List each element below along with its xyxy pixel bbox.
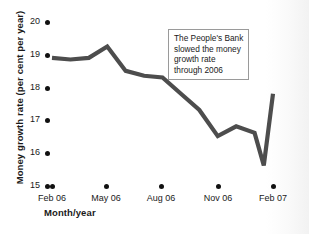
y-tick-label-19: 19 xyxy=(18,49,40,59)
y-tick-label-20: 20 xyxy=(18,16,40,26)
x-tick-label-feb07: Feb 07 xyxy=(250,193,296,203)
x-tick-dot-feb06 xyxy=(50,184,55,189)
x-tick-dot-aug06 xyxy=(159,184,164,189)
chart-figure: Money growth rate (per cent per year) Mo… xyxy=(0,0,309,234)
x-tick-dot-feb07 xyxy=(271,184,276,189)
x-tick-dot-may06 xyxy=(104,184,109,189)
x-tick-label-may06: May 06 xyxy=(83,193,129,203)
annotation-callout: The People's Bank slowed the money growt… xyxy=(168,29,249,80)
y-tick-dot-20 xyxy=(45,20,50,25)
y-tick-dot-18 xyxy=(45,86,50,91)
x-tick-dot-nov06 xyxy=(216,184,221,189)
annotation-line-2: slowed the money xyxy=(174,44,244,55)
x-axis-title: Month/year xyxy=(44,207,96,218)
x-tick-label-feb06: Feb 06 xyxy=(29,193,75,203)
y-tick-label-17: 17 xyxy=(18,114,40,124)
annotation-line-1: The People's Bank xyxy=(174,33,244,44)
annotation-line-3: growth rate xyxy=(174,54,244,65)
y-tick-label-18: 18 xyxy=(18,82,40,92)
x-tick-label-aug06: Aug 06 xyxy=(138,193,184,203)
y-tick-dot-17 xyxy=(45,118,50,123)
y-tick-label-16: 16 xyxy=(18,147,40,157)
x-tick-label-nov06: Nov 06 xyxy=(195,193,241,203)
annotation-line-4: through 2006 xyxy=(174,65,244,76)
y-axis-title: Money growth rate (per cent per year) xyxy=(14,3,25,193)
y-tick-dot-16 xyxy=(45,151,50,156)
y-tick-label-15: 15 xyxy=(18,180,40,190)
y-tick-dot-19 xyxy=(45,53,50,58)
